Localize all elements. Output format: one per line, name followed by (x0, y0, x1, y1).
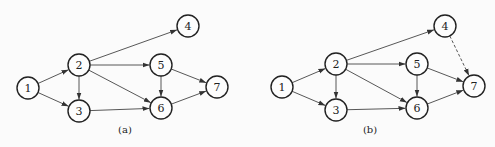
edge-5-7 (427, 68, 463, 82)
node-label: 5 (414, 58, 421, 71)
edge-4-7-dummy (450, 36, 469, 76)
node-2: 2 (325, 53, 347, 75)
node-label: 2 (76, 59, 83, 72)
node-6: 6 (406, 97, 428, 119)
edge-3-6 (90, 108, 150, 110)
network-diagram: 1234567(a)1234567(b) (0, 0, 495, 147)
node-label: 5 (158, 59, 165, 72)
panel-b: 1234567(b) (271, 15, 485, 135)
edge-1-2 (292, 69, 325, 83)
node-label: 1 (25, 82, 32, 95)
node-7: 7 (206, 76, 228, 98)
node-2: 2 (68, 54, 90, 76)
edge-1-3 (292, 91, 325, 105)
node-label: 4 (442, 20, 449, 33)
node-label: 3 (333, 104, 340, 117)
edge-6-7 (171, 91, 206, 104)
node-1: 1 (17, 77, 39, 99)
node-3: 3 (325, 99, 347, 121)
edge-6-7 (427, 90, 463, 104)
node-label: 3 (76, 105, 83, 118)
node-4: 4 (434, 15, 456, 37)
edge-1-3 (38, 93, 68, 107)
node-label: 6 (158, 102, 165, 115)
node-label: 4 (185, 20, 192, 33)
node-label: 7 (471, 80, 478, 93)
edge-1-2 (38, 70, 68, 84)
node-1: 1 (271, 76, 293, 98)
node-label: 7 (214, 81, 221, 94)
edge-3-6 (347, 108, 406, 109)
edge-2-6 (89, 70, 151, 103)
node-6: 6 (150, 97, 172, 119)
node-4: 4 (177, 15, 199, 37)
node-label: 1 (279, 81, 286, 94)
edge-2-6 (346, 69, 407, 102)
panel-caption: (b) (363, 124, 377, 135)
panel-a: 1234567(a) (17, 15, 228, 135)
node-7: 7 (463, 75, 485, 97)
node-label: 6 (414, 102, 421, 115)
node-5: 5 (150, 54, 172, 76)
panel-caption: (a) (118, 124, 132, 135)
node-5: 5 (406, 53, 428, 75)
node-label: 2 (333, 58, 340, 71)
edge-5-7 (171, 69, 206, 83)
node-3: 3 (68, 100, 90, 122)
